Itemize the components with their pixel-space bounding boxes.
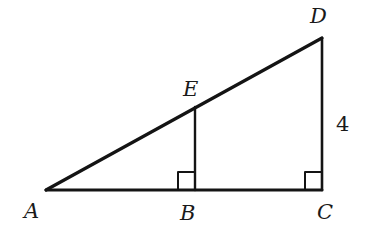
label-d: D bbox=[309, 4, 327, 28]
label-length-dc: 4 bbox=[336, 112, 349, 136]
label-e: E bbox=[182, 77, 198, 101]
right-angle-marker-b bbox=[178, 172, 195, 190]
label-a: A bbox=[22, 199, 39, 223]
triangle-diagram: A B C D E 4 bbox=[0, 0, 365, 233]
label-c: C bbox=[317, 200, 333, 224]
label-b: B bbox=[179, 201, 195, 225]
right-angle-marker-c bbox=[305, 172, 322, 190]
segment-ad bbox=[46, 38, 322, 190]
